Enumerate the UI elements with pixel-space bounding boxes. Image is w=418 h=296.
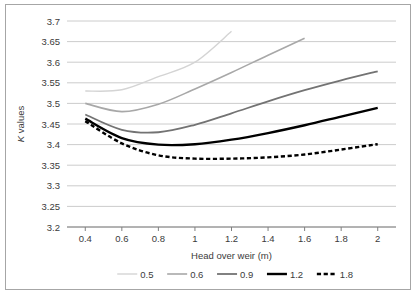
y-tick-label: 3.45 (42, 119, 61, 130)
y-axis-title-words: values (15, 106, 26, 136)
x-axis-title: Head over weir (m) (191, 250, 272, 261)
y-tick-label: 3.25 (42, 201, 61, 212)
y-tick-label: 3.65 (42, 36, 61, 47)
y-tick-label: 3.6 (47, 57, 60, 68)
y-axis-tick-labels: 3.23.253.33.353.43.453.53.553.63.653.7 (42, 16, 61, 233)
x-tick-label: 2 (375, 233, 380, 244)
y-axis-title: K values (15, 106, 26, 143)
x-tick-label: 1.2 (225, 233, 238, 244)
legend-label-0-5[interactable]: 0.5 (140, 269, 153, 280)
x-tick-label: 1.8 (335, 233, 348, 244)
legend-label-0-9[interactable]: 0.9 (240, 269, 253, 280)
legend: 0.50.60.91.21.8 (117, 269, 353, 280)
legend-label-1-8[interactable]: 1.8 (340, 269, 353, 280)
y-tick-label: 3.4 (47, 139, 60, 150)
x-tick-label: 0.4 (79, 233, 92, 244)
x-axis-tick-marks (85, 227, 377, 231)
y-tick-label: 3.55 (42, 77, 61, 88)
line-chart-canvas: 3.23.253.33.353.43.453.53.553.63.653.7 0… (0, 0, 418, 296)
x-tick-label: 1 (192, 233, 197, 244)
x-tick-label: 1.4 (261, 233, 274, 244)
legend-label-1-2[interactable]: 1.2 (290, 269, 303, 280)
x-tick-label: 1.6 (298, 233, 311, 244)
series-line-0-9 (85, 71, 377, 132)
y-tick-label: 3.3 (47, 180, 60, 191)
x-tick-label: 0.6 (115, 233, 128, 244)
gridlines-group (67, 21, 396, 227)
chart-figure: 3.23.253.33.353.43.453.53.553.63.653.7 0… (0, 0, 418, 296)
y-tick-label: 3.7 (47, 16, 60, 27)
y-tick-label: 3.5 (47, 98, 60, 109)
series-lines-group (85, 31, 377, 159)
y-tick-label: 3.2 (47, 222, 60, 233)
x-axis-tick-labels: 0.40.60.811.21.41.61.82 (79, 233, 381, 244)
legend-label-0-6[interactable]: 0.6 (190, 269, 203, 280)
y-tick-label: 3.35 (42, 160, 61, 171)
x-tick-label: 0.8 (152, 233, 165, 244)
